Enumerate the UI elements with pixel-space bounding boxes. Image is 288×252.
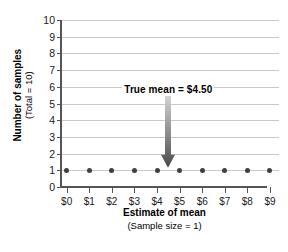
gridline [61, 53, 279, 54]
x-axis-line [60, 186, 267, 188]
data-point [64, 168, 69, 173]
gridline [61, 70, 279, 71]
x-axis-title: Estimate of mean (Sample size = 1) [61, 206, 268, 232]
x-axis-title-sub: (Sample size = 1) [61, 220, 268, 233]
x-axis-title-main: Estimate of mean [61, 206, 268, 220]
y-tick-label: 6 [49, 81, 55, 93]
y-tick-label: 10 [43, 14, 55, 26]
annotation-arrow-icon [160, 96, 176, 168]
y-tick-label: 0 [49, 181, 55, 193]
y-tick-label: 9 [49, 31, 55, 43]
gridline [61, 37, 279, 38]
y-tick-label: 5 [49, 98, 55, 110]
data-point [177, 168, 182, 173]
y-tick-label: 2 [49, 148, 55, 160]
data-point [155, 168, 160, 173]
gridline [61, 20, 279, 21]
y-axis-title-sub: (Total = 10) [23, 49, 34, 142]
data-point [267, 168, 272, 173]
data-point [87, 168, 92, 173]
plot-area: 012345678910 $0$1$2$3$4$5$6$7$8$9 True m… [61, 20, 279, 187]
y-axis-line [60, 20, 62, 187]
data-point [109, 168, 114, 173]
data-point [132, 168, 137, 173]
y-tick-label: 4 [49, 114, 55, 126]
annotation-label: True mean = $4.50 [122, 84, 214, 95]
y-tick-label: 7 [49, 64, 55, 76]
y-axis-title-main: Number of samples [12, 49, 24, 142]
data-point [222, 168, 227, 173]
data-point [245, 168, 250, 173]
data-point [200, 168, 205, 173]
y-tick-label: 8 [49, 47, 55, 59]
y-axis-title: Number of samples (Total = 10) [0, 0, 46, 190]
chart-figure: Number of samples (Total = 10) 012345678… [0, 0, 288, 252]
y-tick-label: 3 [49, 131, 55, 143]
x-tick-mark [270, 187, 271, 193]
y-tick-label: 1 [49, 164, 55, 176]
